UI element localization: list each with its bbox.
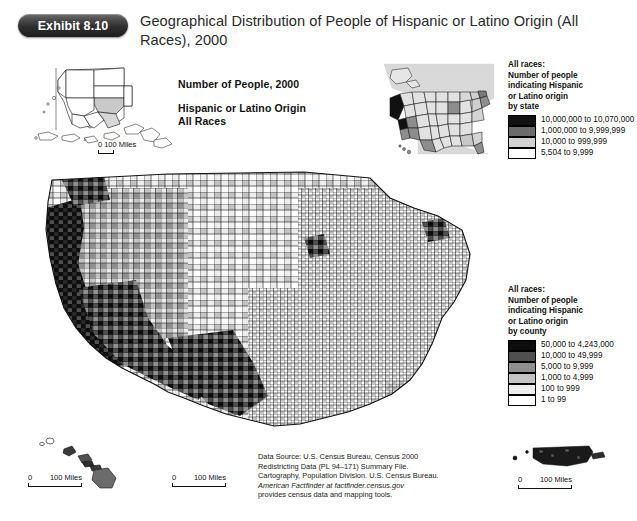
county-legend-swatch xyxy=(508,384,536,395)
state-legend-label: 10,000 to 999,999 xyxy=(541,137,607,148)
county-legend-item: 100 to 999 xyxy=(508,384,614,395)
source-note-line-1: Data Source: U.S. Census Bureau, Census … xyxy=(258,452,439,462)
county-legend-swatch xyxy=(508,362,536,373)
state-legend-swatch xyxy=(508,126,536,137)
state-legend-swatch xyxy=(508,148,536,159)
lower48-scale-distance: 100 Miles xyxy=(194,474,226,482)
hawaii-scale-distance: 100 Miles xyxy=(50,474,82,482)
page-title: Geographical Distribution of People of H… xyxy=(140,12,620,50)
state-legend-item: 1,000,000 to 9,999,999 xyxy=(508,126,634,137)
caption-line-origin: Hispanic or Latino Origin xyxy=(178,102,306,115)
county-legend-heading: All races: Number of people indicating H… xyxy=(508,285,614,338)
county-legend-label: 100 to 999 xyxy=(541,384,580,395)
county-legend-head-4: by county xyxy=(508,327,614,338)
county-legend-label: 5,000 to 9,999 xyxy=(541,362,593,373)
source-note-line-3: Cartography, Population Division. U.S. C… xyxy=(258,471,439,481)
caption-line-number-of-people: Number of People, 2000 xyxy=(178,78,306,91)
county-legend-rows: 50,000 to 4,243,000 10,000 to 49,999 5,0… xyxy=(508,340,614,406)
state-legend-label: 5,504 to 9,999 xyxy=(541,148,593,159)
state-legend-head-4: by state xyxy=(508,102,634,113)
puerto-rico-scale-distance: 100 Miles xyxy=(540,476,572,484)
caption-line-all-races: All Races xyxy=(178,115,306,128)
caption-block: Number of People, 2000 Hispanic or Latin… xyxy=(178,78,306,128)
state-legend-swatch xyxy=(508,115,536,126)
county-legend-head-0: All races: xyxy=(508,285,614,296)
county-legend: All races: Number of people indicating H… xyxy=(508,285,614,406)
lower48-scale-zero: 0 xyxy=(172,474,176,482)
lower48-scale-bar-line xyxy=(172,483,226,487)
source-note: Data Source: U.S. Census Bureau, Census … xyxy=(258,452,439,500)
county-legend-swatch xyxy=(508,340,536,351)
hawaii-scale-bar: 0 100 Miles xyxy=(28,474,82,487)
alaska-scale-bar-line xyxy=(98,150,114,154)
county-legend-item: 5,000 to 9,999 xyxy=(508,362,614,373)
state-legend-label: 1,000,000 to 9,999,999 xyxy=(541,126,625,137)
county-legend-label: 1 to 99 xyxy=(541,395,566,406)
state-legend-item: 5,504 to 9,999 xyxy=(508,148,634,159)
puerto-rico-scale-bar-line xyxy=(518,485,572,489)
county-legend-label: 1,000 to 4,999 xyxy=(541,373,593,384)
state-legend-label: 10,000,000 to 10,070,000 xyxy=(541,115,634,126)
county-legend-swatch xyxy=(508,395,536,406)
county-legend-head-1: Number of people xyxy=(508,296,614,307)
state-legend-item: 10,000 to 999,999 xyxy=(508,137,634,148)
exhibit-badge: Exhibit 8.10 xyxy=(18,14,128,37)
county-legend-item: 50,000 to 4,243,000 xyxy=(508,340,614,351)
county-legend-label: 50,000 to 4,243,000 xyxy=(541,340,614,351)
county-legend-item: 1 to 99 xyxy=(508,395,614,406)
alaska-scale-bar: 0 100 Miles xyxy=(98,141,138,154)
county-legend-label: 10,000 to 49,999 xyxy=(541,351,602,362)
county-legend-swatch xyxy=(508,351,536,362)
exhibit-badge-label: Exhibit 8.10 xyxy=(38,19,109,33)
lower48-scale-bar: 0 100 Miles xyxy=(172,474,226,487)
county-legend-head-2: indicating Hispanic xyxy=(508,306,614,317)
state-choropleth-inset-map xyxy=(378,58,500,158)
state-legend-head-2: indicating Hispanic xyxy=(508,81,634,92)
state-legend-rows: 10,000,000 to 10,070,000 1,000,000 to 9,… xyxy=(508,115,634,159)
source-note-line-5: provides census data and mapping tools. xyxy=(258,490,439,500)
county-legend-head-3: or Latino origin xyxy=(508,317,614,328)
puerto-rico-scale-bar: 0 100 Miles xyxy=(518,476,572,489)
source-note-line-2: Redistricting Data (PL 94–171) Summary F… xyxy=(258,462,439,472)
puerto-rico-scale-zero: 0 xyxy=(518,476,522,484)
hawaii-scale-bar-line xyxy=(28,483,82,487)
alaska-scale-distance: 100 Miles xyxy=(104,141,136,149)
state-legend-item: 10,000,000 to 10,070,000 xyxy=(508,115,634,126)
state-legend-head-1: Number of people xyxy=(508,71,634,82)
county-legend-item: 10,000 to 49,999 xyxy=(508,351,614,362)
state-legend-swatch xyxy=(508,137,536,148)
state-legend-head-0: All races: xyxy=(508,60,634,71)
caption-spacer xyxy=(178,91,306,102)
alaska-scale-zero: 0 xyxy=(98,141,102,149)
hawaii-scale-zero: 0 xyxy=(28,474,32,482)
state-legend: All races: Number of people indicating H… xyxy=(508,60,634,159)
county-legend-swatch xyxy=(508,373,536,384)
county-legend-item: 1,000 to 4,999 xyxy=(508,373,614,384)
state-legend-heading: All races: Number of people indicating H… xyxy=(508,60,634,113)
source-note-line-4: American Factfinder at factfinder.census… xyxy=(258,481,439,491)
county-choropleth-main-map xyxy=(18,168,498,468)
state-legend-head-3: or Latino origin xyxy=(508,92,634,103)
